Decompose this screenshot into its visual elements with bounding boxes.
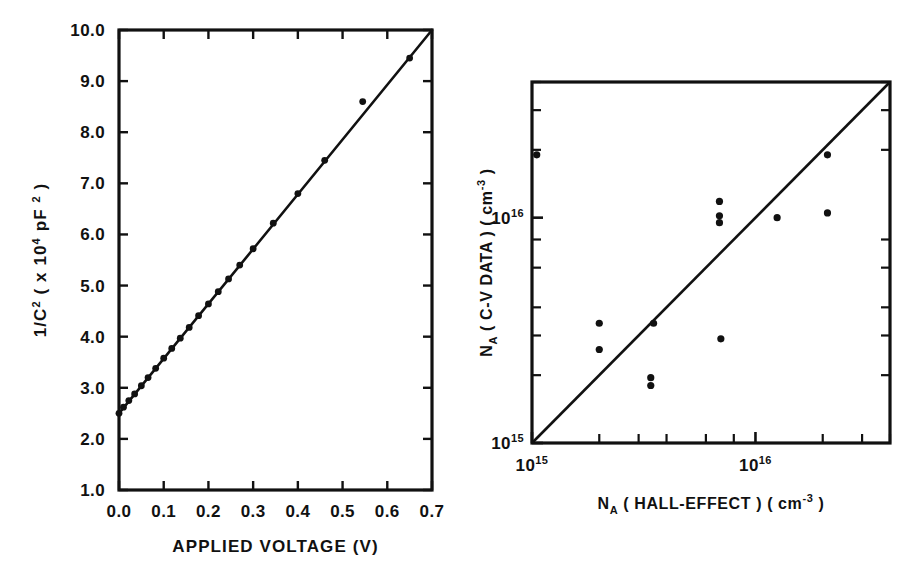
data-point — [824, 151, 831, 158]
data-point — [321, 157, 328, 164]
x-axis-title: APPLIED VOLTAGE (V) — [172, 537, 378, 556]
x-tick-label: 0.6 — [375, 502, 400, 521]
cv-plot: 0.00.10.20.30.40.50.60.71.02.03.04.05.06… — [0, 0, 462, 581]
data-point — [717, 335, 724, 342]
data-point — [168, 345, 175, 352]
x-tick-label: 0.0 — [107, 502, 132, 521]
x-tick-label: 1015 — [516, 454, 549, 475]
data-point — [177, 335, 184, 342]
data-point — [647, 382, 654, 389]
x-tick-label: 0.2 — [196, 502, 221, 521]
data-point — [225, 276, 232, 283]
data-point — [250, 245, 257, 252]
figure-canvas: 0.00.10.20.30.40.50.60.71.02.03.04.05.06… — [0, 0, 924, 581]
data-point — [359, 98, 366, 105]
x-tick-label: 1016 — [739, 454, 772, 475]
data-point — [215, 288, 222, 295]
data-point — [131, 391, 138, 398]
data-point — [138, 382, 145, 389]
plot-frame — [119, 30, 432, 490]
data-point — [596, 320, 603, 327]
data-point — [716, 219, 723, 226]
y-tick-label: 4.0 — [80, 328, 105, 347]
data-point — [152, 365, 159, 372]
y-tick-label: 3.0 — [80, 379, 105, 398]
data-point — [716, 212, 723, 219]
data-point — [125, 397, 132, 404]
data-point — [774, 214, 781, 221]
data-point — [120, 404, 127, 411]
y-tick-label: 5.0 — [80, 277, 105, 296]
data-point — [160, 355, 167, 362]
x-tick-label: 0.4 — [285, 502, 310, 521]
x-axis-title: NA ( HALL-EFFECT ) ( cm-3 ) — [598, 492, 825, 516]
y-axis-title: NA ( C-V DATA ) ( cm-3 ) — [475, 168, 499, 356]
y-tick-label: 10.0 — [70, 21, 105, 40]
na-comparison-plot: 1015101610151016NA ( HALL-EFFECT ) ( cm-… — [462, 0, 924, 581]
data-point — [824, 209, 831, 216]
data-point — [116, 410, 123, 417]
x-tick-label: 0.3 — [241, 502, 266, 521]
y-tick-label: 8.0 — [80, 123, 105, 142]
data-point — [650, 320, 657, 327]
y-tick-label: 1015 — [491, 432, 524, 453]
y-tick-label: 6.0 — [80, 225, 105, 244]
data-point — [186, 324, 193, 331]
data-point — [145, 374, 152, 381]
y-tick-label: 1.0 — [80, 481, 105, 500]
data-point — [270, 220, 277, 227]
data-point — [195, 312, 202, 319]
data-point — [596, 346, 603, 353]
x-tick-label: 0.5 — [330, 502, 355, 521]
x-tick-label: 0.1 — [151, 502, 176, 521]
y-tick-label: 9.0 — [80, 72, 105, 91]
unity-line — [532, 82, 890, 443]
y-tick-label: 7.0 — [80, 174, 105, 193]
data-point — [716, 198, 723, 205]
y-tick-label: 1016 — [491, 207, 524, 228]
data-point — [236, 262, 243, 269]
data-point — [294, 190, 301, 197]
data-point — [533, 151, 540, 158]
data-point — [647, 374, 654, 381]
data-point — [205, 301, 212, 308]
y-tick-label: 2.0 — [80, 430, 105, 449]
data-point — [406, 55, 413, 62]
x-tick-label: 0.7 — [420, 502, 445, 521]
y-axis-title: 1/C2 ( x 104 pF 2 ) — [30, 183, 50, 338]
